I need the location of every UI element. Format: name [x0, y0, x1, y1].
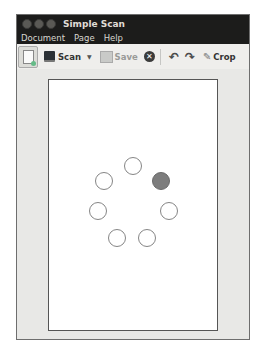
stop-icon[interactable]: ✕	[144, 51, 155, 62]
crop-button[interactable]: ✎ Crop	[201, 46, 238, 68]
spinner-dot	[89, 202, 107, 220]
spinner-dot	[160, 202, 178, 220]
scan-canvas	[17, 69, 249, 339]
spinner-dot	[124, 157, 142, 175]
scan-button[interactable]: Scan	[42, 46, 83, 68]
crop-label: Crop	[213, 52, 235, 62]
close-window-button[interactable]	[22, 19, 32, 29]
spinner-dot	[138, 229, 156, 247]
menu-document[interactable]: Document	[21, 33, 65, 43]
spinner-dot-active	[152, 172, 170, 190]
menu-help[interactable]: Help	[104, 33, 123, 43]
title-bar[interactable]: Simple Scan	[17, 15, 249, 32]
scanner-icon	[44, 51, 55, 62]
menu-bar: Document Page Help	[17, 32, 249, 44]
save-icon	[100, 51, 113, 63]
rotate-left-icon[interactable]: ↶	[169, 50, 179, 64]
spinner-dot	[95, 172, 113, 190]
crop-icon: ✎	[203, 51, 211, 62]
toolbar: Scan ▼ Save ✕ ↶ ↷ ✎ Crop	[17, 44, 249, 69]
chevron-down-icon[interactable]: ▼	[87, 53, 92, 60]
spinner-dot	[108, 229, 126, 247]
new-document-button[interactable]	[18, 46, 38, 68]
scanned-page[interactable]	[48, 79, 218, 331]
window-controls	[22, 19, 56, 29]
rotate-right-icon[interactable]: ↷	[185, 50, 195, 64]
window-title: Simple Scan	[63, 19, 125, 29]
save-label: Save	[115, 52, 138, 62]
simple-scan-window: Simple Scan Document Page Help Scan ▼ Sa…	[16, 14, 250, 340]
maximize-window-button[interactable]	[46, 19, 56, 29]
scan-label: Scan	[58, 52, 81, 62]
toolbar-separator	[160, 49, 161, 65]
save-button[interactable]: Save	[98, 46, 140, 68]
minimize-window-button[interactable]	[34, 19, 44, 29]
document-new-icon	[23, 50, 34, 64]
menu-page[interactable]: Page	[74, 33, 95, 43]
